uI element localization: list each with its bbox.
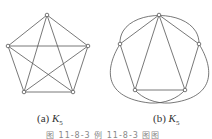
vertex bbox=[133, 88, 137, 92]
vertex bbox=[86, 44, 90, 48]
edge bbox=[8, 15, 47, 46]
vertex bbox=[157, 13, 161, 17]
figure-a-k5-straight bbox=[8, 15, 88, 92]
edge bbox=[8, 46, 24, 92]
vertex bbox=[183, 88, 187, 92]
label-prefix: (b) bbox=[153, 112, 169, 124]
k5-diagram bbox=[0, 0, 212, 139]
label-variable: K bbox=[169, 112, 176, 124]
edge bbox=[24, 46, 88, 92]
edge bbox=[47, 15, 88, 46]
figure-b-label: (b) K5 bbox=[153, 112, 179, 127]
label-prefix: (a) bbox=[37, 112, 52, 124]
vertex bbox=[6, 44, 10, 48]
vertex bbox=[197, 42, 201, 46]
edge bbox=[8, 46, 73, 92]
figure-a-label: (a) K5 bbox=[37, 112, 63, 127]
edge bbox=[47, 15, 73, 92]
edge bbox=[24, 15, 47, 92]
label-subscript: 5 bbox=[59, 119, 63, 127]
vertex bbox=[45, 13, 49, 17]
figure-caption: 图 11-8-3 例 11-8-3 图图 bbox=[46, 129, 160, 139]
vertex bbox=[71, 90, 75, 94]
label-subscript: 5 bbox=[176, 119, 180, 127]
vertex bbox=[22, 90, 26, 94]
figure-b-k5-planar-drawing bbox=[110, 15, 208, 103]
vertex bbox=[118, 42, 122, 46]
edge bbox=[73, 46, 88, 92]
